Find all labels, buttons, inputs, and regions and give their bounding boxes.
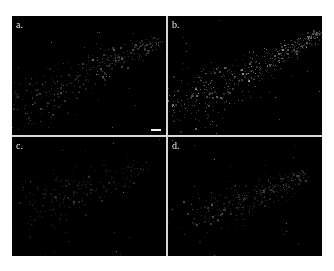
fluorescence-image-a xyxy=(12,16,166,135)
microscopy-figure: a. b. c. d. xyxy=(12,16,322,256)
panel-label-c: c. xyxy=(16,141,23,151)
panel-d: d. xyxy=(168,137,322,256)
panel-c: c. xyxy=(12,137,166,256)
panel-label-b: b. xyxy=(172,20,180,30)
fluorescence-image-b xyxy=(168,16,322,135)
panel-label-a: a. xyxy=(16,20,23,30)
fluorescence-image-d xyxy=(168,137,322,256)
fluorescence-image-c xyxy=(12,137,166,256)
panel-b: b. xyxy=(168,16,322,135)
scale-bar xyxy=(151,129,161,131)
panel-a: a. xyxy=(12,16,166,135)
panel-label-d: d. xyxy=(172,141,180,151)
